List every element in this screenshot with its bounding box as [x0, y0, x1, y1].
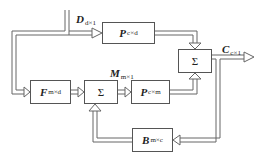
block-f-md-sub: m×d [48, 88, 61, 96]
signal-label-c: Cc×1 [222, 39, 241, 57]
signal-m-symbol: M [110, 67, 120, 79]
signal-c-sub: c×1 [230, 49, 241, 57]
block-b-mc-sub: m×c [150, 136, 163, 144]
block-p-cd-symbol: P [119, 27, 126, 39]
block-b-mc: Bm×c [132, 128, 173, 152]
block-p-cd-sub: c×d [127, 29, 138, 37]
arrow-to-sum-mid-bottom [89, 104, 101, 111]
block-p-cd: Pc×d [102, 22, 155, 44]
sigma-symbol: Σ [98, 86, 104, 98]
signal-c-symbol: C [222, 43, 229, 55]
block-p-cm-sub: c×m [148, 88, 161, 96]
signal-label-m: Mm×1 [110, 63, 134, 81]
block-f-md-symbol: F [40, 86, 47, 98]
block-p-cm: Pc×m [131, 80, 170, 104]
arrow-to-pcd [92, 28, 102, 38]
signal-d-sub: d×1 [85, 19, 96, 27]
signal-m-sub: m×1 [121, 73, 134, 81]
block-b-mc-symbol: B [142, 134, 149, 146]
signal-label-d: Dd×1 [76, 9, 96, 27]
block-p-cm-symbol: P [140, 86, 147, 98]
arrow-to-b [173, 135, 180, 145]
arrow-c-output [244, 52, 254, 62]
summing-junction-middle: Σ [84, 80, 118, 104]
summing-junction-output: Σ [178, 49, 212, 73]
sigma-symbol: Σ [192, 55, 198, 67]
signal-d-symbol: D [76, 13, 84, 25]
block-f-md: Fm×d [30, 80, 71, 104]
arrow-to-sum-out-bottom [189, 73, 201, 79]
